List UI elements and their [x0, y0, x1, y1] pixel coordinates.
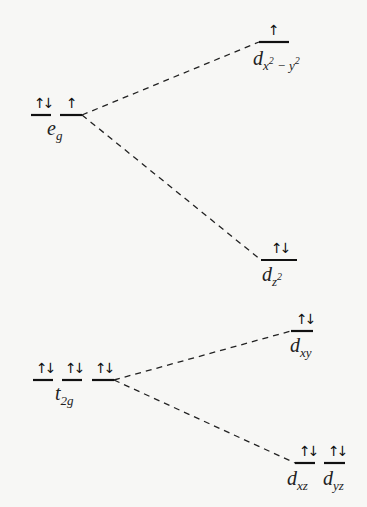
t2g-label: t2g — [55, 383, 74, 407]
dz2-label: dz2 — [262, 264, 282, 288]
dyz-label: dyz — [323, 468, 344, 492]
dxy-label: dxy — [290, 335, 312, 359]
dz2-spin-arrows: ↑↓ — [271, 241, 288, 255]
splitting-diagram — [0, 0, 367, 507]
dxz-spin-arrows: ↑↓ — [299, 444, 316, 458]
eg-2-spin-arrows: ↑ — [66, 96, 75, 110]
dx2y2-label: dx2 − y2 — [253, 48, 300, 72]
t2g-2-spin-arrows: ↑↓ — [65, 361, 82, 375]
t2g-3-spin-arrows: ↑↓ — [95, 361, 112, 375]
dx2y2-spin-arrows: ↑ — [268, 23, 277, 37]
connector-t2g-dxy — [114, 331, 291, 380]
dyz-spin-arrows: ↑↓ — [328, 444, 345, 458]
t2g-1-spin-arrows: ↑↓ — [36, 361, 53, 375]
eg-label: eg — [47, 118, 62, 142]
dxy-spin-arrows: ↑↓ — [296, 312, 313, 326]
connector-t2g-dxz — [114, 380, 295, 463]
dxz-label: dxz — [287, 468, 308, 492]
connector-eg-dx2y2 — [82, 42, 259, 115]
eg-1-spin-arrows: ↑↓ — [34, 96, 51, 110]
connector-eg-dz2 — [82, 115, 261, 260]
